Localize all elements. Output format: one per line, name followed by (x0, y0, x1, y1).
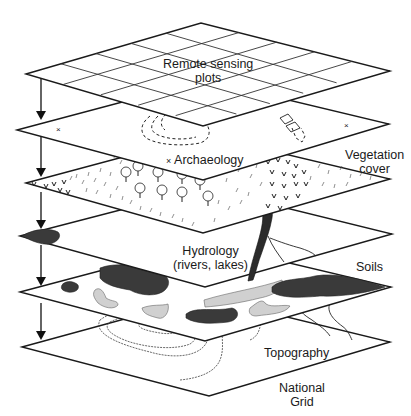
svg-text:×: × (344, 121, 349, 130)
label-national-grid-line2: Grid (279, 395, 325, 409)
label-hydrology-line2: (rivers, lakes) (173, 258, 248, 272)
arrow-5 (36, 303, 46, 340)
label-vegetation-line2: cover (345, 162, 404, 176)
arrow-3 (36, 192, 46, 229)
svg-text:×: × (56, 125, 61, 134)
label-topography: Topography (264, 346, 329, 360)
label-soils: Soils (356, 260, 383, 274)
arrow-1 (36, 78, 46, 120)
label-remote-sensing-line1: Remote sensing (163, 57, 253, 71)
label-hydrology-line1: Hydrology (173, 244, 248, 258)
label-remote-sensing: Remote sensing plots (163, 57, 253, 85)
label-national-grid-line1: National (279, 381, 325, 395)
label-hydrology: Hydrology (rivers, lakes) (173, 244, 248, 272)
arrow-2 (36, 136, 46, 177)
label-vegetation: Vegetation cover (345, 148, 404, 176)
label-remote-sensing-line2: plots (163, 71, 253, 85)
label-archaeology: × Archaeology (166, 153, 244, 168)
arrow-4 (36, 245, 46, 286)
label-national-grid: National Grid (279, 381, 325, 409)
label-vegetation-line1: Vegetation (345, 148, 404, 162)
x-mark-icon: × (166, 156, 171, 166)
